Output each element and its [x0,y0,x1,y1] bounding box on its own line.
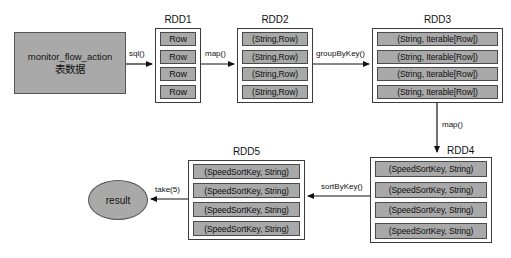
rdd4-container[interactable]: (SpeedSortKey, String) (SpeedSortKey, St… [370,157,492,243]
rdd2-item: (String,Row) [242,32,308,46]
edge-label-sql: sql() [128,49,146,58]
rdd3-item: (String, Iterable[Row]) [377,67,498,81]
rdd5-item: (SpeedSortKey, String) [193,221,300,236]
rdd1-title: RDD1 [155,14,201,25]
rdd5-title: RDD5 [188,146,305,157]
rdd3-item: (String, Iterable[Row]) [377,85,498,99]
diagram-canvas: monitor_flow_action 表数据 sql() map() grou… [0,0,511,258]
rdd2-item: (String,Row) [242,67,308,81]
rdd1-container[interactable]: Row Row Row Row [155,28,201,103]
rdd1-item: Row [160,32,196,46]
rdd4-item: (SpeedSortKey, String) [375,223,487,239]
rdd2-title: RDD2 [237,14,313,25]
rdd3-container[interactable]: (String, Iterable[Row]) (String, Iterabl… [372,28,503,103]
source-table-subtitle: 表数据 [55,63,85,76]
rdd3-item: (String, Iterable[Row]) [377,50,498,64]
source-table-node[interactable]: monitor_flow_action 表数据 [14,32,126,94]
edge-label-sortbykey: sortByKey() [320,182,364,191]
rdd2-container[interactable]: (String,Row) (String,Row) (String,Row) (… [237,28,313,103]
rdd1-item: Row [160,50,196,64]
rdd4-item: (SpeedSortKey, String) [375,202,487,218]
edge-label-take: take(5) [154,185,181,194]
rdd3-title: RDD3 [372,14,503,25]
rdd5-item: (SpeedSortKey, String) [193,202,300,217]
edge-label-map1: map() [204,49,227,58]
rdd5-container[interactable]: (SpeedSortKey, String) (SpeedSortKey, St… [188,160,305,240]
rdd1-item: Row [160,67,196,81]
rdd4-item: (SpeedSortKey, String) [375,182,487,198]
rdd1-item: Row [160,85,196,99]
rdd4-title: RDD4 [447,145,487,156]
rdd5-item: (SpeedSortKey, String) [193,164,300,179]
rdd2-item: (String,Row) [242,50,308,64]
result-node[interactable]: result [88,180,148,220]
rdd3-item: (String, Iterable[Row]) [377,32,498,46]
edge-label-map2: map() [441,120,464,129]
edge-label-groupbykey: groupByKey() [315,49,366,58]
rdd4-item: (SpeedSortKey, String) [375,161,487,177]
source-table-name: monitor_flow_action [28,51,113,63]
rdd5-item: (SpeedSortKey, String) [193,183,300,198]
rdd2-item: (String,Row) [242,85,308,99]
